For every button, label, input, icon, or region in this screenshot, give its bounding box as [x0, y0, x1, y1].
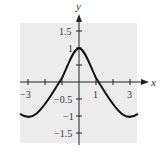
x-tick-label-3: 3 [127, 89, 132, 100]
y-tick-label-neg1: −1 [63, 111, 74, 122]
y-tick-label-1: 1 [68, 43, 73, 54]
x-tick-label-neg3: −3 [20, 89, 31, 100]
y-tick-label-neg1-5: −1.5 [54, 128, 72, 139]
x-tick-label-1: 1 [93, 89, 98, 100]
x-axis-arrow-icon [141, 79, 149, 85]
y-axis-label: y [75, 0, 81, 12]
y-axis-arrow-icon [76, 14, 82, 22]
y-tick-label-neg0-5: −0.5 [54, 94, 72, 105]
y-tick-label-1-5: 1.5 [59, 26, 72, 37]
cosine-chart: y x −3 1 3 1.5 1 −0.5 −1 −1.5 [0, 0, 164, 155]
x-axis-label: x [150, 76, 156, 88]
